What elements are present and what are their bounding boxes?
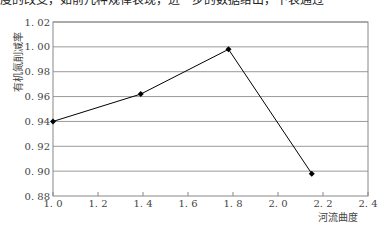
y-tick-label: 0. 98 [25, 66, 50, 77]
x-tick-label: 2. 0 [268, 198, 287, 209]
series-line [53, 49, 312, 173]
y-tick-label: 0. 92 [25, 141, 50, 152]
x-axis-title: 河流曲度 [318, 211, 358, 223]
y-axis-title: 有机氮削减率 [12, 32, 24, 92]
data-point-marker [50, 118, 56, 124]
x-tick-label: 1. 4 [133, 198, 152, 209]
y-tick-label: 0. 96 [25, 91, 50, 102]
x-tick-label: 1. 2 [88, 198, 107, 209]
x-tick-label: 1. 8 [223, 198, 242, 209]
y-tick-label: 0. 90 [25, 166, 50, 177]
y-tick-label: 0. 94 [25, 116, 50, 127]
x-tick-label: 2. 4 [358, 198, 377, 209]
x-tick-label: 2. 2 [313, 198, 332, 209]
x-tick-label: 1. 0 [43, 198, 62, 209]
y-tick-label: 1. 00 [25, 41, 50, 52]
y-tick-label: 1. 02 [25, 17, 50, 28]
line-chart: 0. 880. 900. 920. 940. 960. 981. 001. 02… [0, 0, 390, 236]
plot-frame [53, 22, 368, 196]
x-tick-label: 1. 6 [178, 198, 197, 209]
